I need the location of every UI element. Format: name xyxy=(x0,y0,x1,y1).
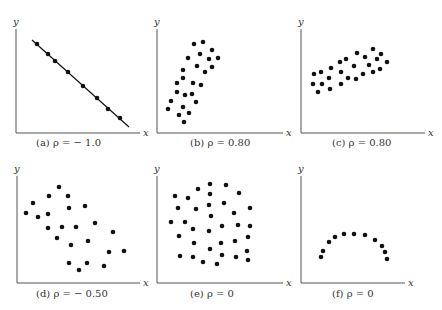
data-point xyxy=(210,48,215,53)
data-point xyxy=(203,70,208,75)
data-point xyxy=(319,255,324,260)
data-point xyxy=(233,239,238,244)
data-point xyxy=(321,249,326,254)
data-point xyxy=(339,70,344,75)
data-point xyxy=(106,107,111,112)
data-point xyxy=(196,187,201,192)
data-point xyxy=(311,82,316,87)
data-point xyxy=(74,225,79,230)
data-point xyxy=(232,211,237,216)
axes xyxy=(301,176,405,283)
x-axis-label: x xyxy=(286,277,292,288)
data-point xyxy=(333,235,338,240)
data-point xyxy=(363,233,368,238)
data-point xyxy=(208,247,213,252)
data-point xyxy=(46,52,51,57)
panel-caption: (c) ρ = 0.80 xyxy=(332,137,391,148)
axes xyxy=(17,176,140,283)
data-point xyxy=(371,70,376,75)
data-point xyxy=(327,240,332,245)
data-point xyxy=(354,77,359,82)
data-point xyxy=(363,55,368,60)
y-axis-label: y xyxy=(153,16,160,27)
data-point xyxy=(181,76,186,81)
data-point xyxy=(385,60,390,65)
data-point xyxy=(237,191,242,196)
data-point xyxy=(111,230,116,235)
data-point xyxy=(245,249,250,254)
data-point xyxy=(210,65,215,70)
data-point xyxy=(118,116,123,121)
data-point xyxy=(182,120,187,125)
data-point xyxy=(60,225,65,230)
data-point xyxy=(35,42,40,47)
data-point xyxy=(169,220,174,225)
data-point xyxy=(352,64,357,69)
data-point xyxy=(320,82,325,87)
data-point xyxy=(198,52,203,57)
data-point xyxy=(375,57,380,62)
data-point xyxy=(67,206,72,211)
data-point xyxy=(342,232,347,237)
data-point xyxy=(222,201,227,206)
data-point xyxy=(236,223,241,228)
x-axis-label: x xyxy=(143,277,149,288)
data-point xyxy=(66,194,71,199)
data-point xyxy=(201,260,206,265)
data-point xyxy=(187,111,192,116)
data-point xyxy=(248,224,253,229)
data-point xyxy=(77,268,82,273)
data-point xyxy=(186,56,191,61)
data-point xyxy=(383,250,388,255)
data-point xyxy=(328,87,333,92)
data-point xyxy=(207,203,212,208)
correlation-scatter-figure: yx(a) ρ = − 1.0yx(b) ρ = 0.80yx(c) ρ = 0… xyxy=(0,0,442,310)
panel-caption: (d) ρ = − 0.50 xyxy=(36,288,108,299)
y-axis-label: y xyxy=(297,163,304,174)
data-point xyxy=(371,47,376,52)
data-point xyxy=(102,264,107,269)
data-point xyxy=(67,261,72,266)
data-point xyxy=(319,70,324,75)
data-point xyxy=(36,215,41,220)
data-point xyxy=(173,194,178,199)
data-point xyxy=(329,66,334,71)
data-point xyxy=(192,42,197,47)
data-point xyxy=(183,93,188,98)
data-point xyxy=(194,100,199,105)
data-point xyxy=(352,232,357,237)
data-point xyxy=(201,40,206,45)
data-point xyxy=(246,235,251,240)
data-point xyxy=(166,107,171,112)
data-point xyxy=(66,70,71,75)
data-point xyxy=(191,255,196,260)
y-axis-label: y xyxy=(297,16,304,27)
y-axis-label: y xyxy=(12,16,19,27)
panel-caption: (b) ρ = 0.80 xyxy=(190,137,250,148)
data-point xyxy=(207,229,212,234)
data-point xyxy=(46,212,51,217)
data-point xyxy=(338,60,343,65)
data-point xyxy=(219,241,224,246)
panel-b: yx(b) ρ = 0.80 xyxy=(153,16,292,148)
data-point xyxy=(208,192,213,197)
data-point xyxy=(380,244,385,249)
data-point xyxy=(339,82,344,87)
data-point xyxy=(346,76,351,81)
axes xyxy=(301,29,425,133)
data-point xyxy=(215,262,220,267)
data-point xyxy=(57,185,62,190)
data-point xyxy=(86,239,91,244)
data-point xyxy=(209,214,214,219)
panel-e: yx(e) ρ = 0 xyxy=(153,163,292,299)
data-point xyxy=(69,243,74,248)
data-point xyxy=(224,183,229,188)
data-point xyxy=(181,68,186,73)
data-point xyxy=(183,220,188,225)
data-point xyxy=(361,72,366,77)
data-point xyxy=(344,57,349,62)
data-point xyxy=(24,211,29,216)
data-point xyxy=(192,241,197,246)
data-point xyxy=(83,204,88,209)
data-point xyxy=(85,261,90,266)
